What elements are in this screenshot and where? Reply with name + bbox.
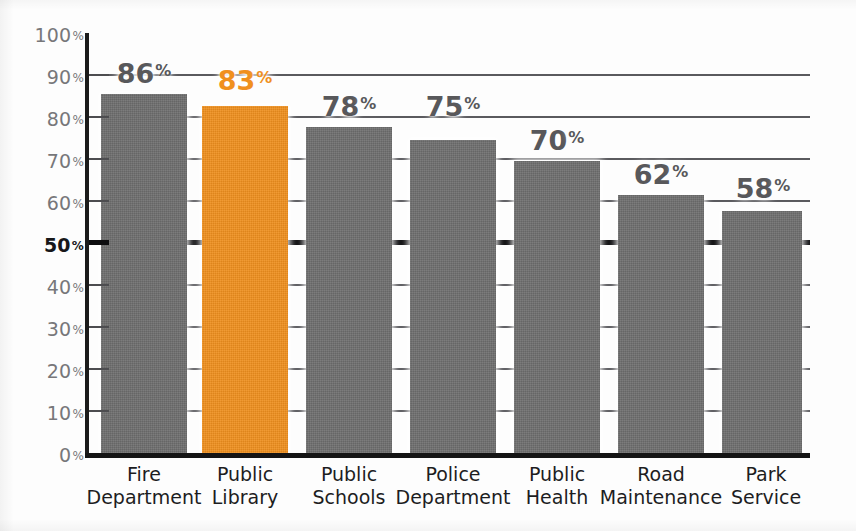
x-axis-baseline xyxy=(85,453,810,458)
value-text: 75 xyxy=(426,91,464,122)
percent-sign: % xyxy=(72,323,84,337)
value-text: 70 xyxy=(530,125,568,156)
value-label-public-health: 70% xyxy=(514,124,600,154)
gridline-90 xyxy=(89,74,810,76)
value-label-fire-department: 86% xyxy=(101,57,187,87)
y-tick-value-50: 50 xyxy=(44,234,71,256)
percent-sign: % xyxy=(774,176,790,195)
value-label-public-schools: 78% xyxy=(306,90,392,120)
y-tick-value-40: 40 xyxy=(47,276,72,298)
bar-public-schools[interactable] xyxy=(306,127,392,455)
category-label-public-library: Public Library xyxy=(192,463,298,509)
percent-sign: % xyxy=(72,281,84,295)
bar-public-library[interactable] xyxy=(202,106,288,455)
percent-sign: % xyxy=(72,29,84,43)
value-label-road-maintenance: 62% xyxy=(618,158,704,188)
y-tick-label-100: 100% xyxy=(8,26,84,46)
tick-20 xyxy=(89,368,109,370)
percent-sign: % xyxy=(672,162,688,181)
y-tick-label-30: 30% xyxy=(8,320,84,340)
tick-70 xyxy=(89,158,109,160)
y-axis-tick-labels: 100% 90% 80% 70% 60% 50% 40% 30% 20% 10% xyxy=(0,0,84,531)
value-text: 62 xyxy=(634,159,672,190)
value-text: 78 xyxy=(322,91,360,122)
percent-sign: % xyxy=(72,71,84,85)
percent-sign: % xyxy=(72,239,84,253)
y-tick-label-70: 70% xyxy=(8,152,84,172)
bar-police-department[interactable] xyxy=(410,140,496,455)
percent-sign: % xyxy=(72,197,84,211)
y-tick-value-0: 0 xyxy=(59,444,71,466)
tick-30 xyxy=(89,326,109,328)
tick-40 xyxy=(89,284,109,286)
y-tick-label-0: 0% xyxy=(8,446,84,466)
category-label-police-department: Police Department xyxy=(389,463,517,509)
y-tick-value-90: 90 xyxy=(47,66,72,88)
value-label-park-service: 58% xyxy=(720,172,806,202)
y-tick-label-50: 50% xyxy=(8,236,84,256)
tick-10 xyxy=(89,410,109,412)
tick-50 xyxy=(89,240,109,245)
value-text: 83 xyxy=(218,65,256,96)
y-tick-value-20: 20 xyxy=(47,360,72,382)
y-tick-value-70: 70 xyxy=(47,150,72,172)
percent-sign: % xyxy=(72,155,84,169)
y-tick-label-20: 20% xyxy=(8,362,84,382)
value-label-police-department: 75% xyxy=(410,90,496,120)
percent-sign: % xyxy=(72,365,84,379)
percent-sign: % xyxy=(256,68,272,87)
bar-chart: 100% 90% 80% 70% 60% 50% 40% 30% 20% 10% xyxy=(0,0,856,531)
y-tick-label-40: 40% xyxy=(8,278,84,298)
y-tick-value-60: 60 xyxy=(47,192,72,214)
percent-sign: % xyxy=(464,94,480,113)
tick-80 xyxy=(89,116,109,118)
bar-park-service[interactable] xyxy=(722,211,802,455)
value-text: 58 xyxy=(736,173,774,204)
y-tick-value-100: 100 xyxy=(35,24,72,46)
bar-public-health[interactable] xyxy=(514,161,600,455)
y-tick-label-10: 10% xyxy=(8,404,84,424)
y-tick-label-80: 80% xyxy=(8,110,84,130)
category-label-fire-department: Fire Department xyxy=(80,463,208,509)
percent-sign: % xyxy=(72,449,84,463)
bar-road-maintenance[interactable] xyxy=(618,195,704,455)
value-label-public-library: 83% xyxy=(202,64,288,94)
percent-sign: % xyxy=(72,113,84,127)
y-axis-line xyxy=(85,33,89,457)
y-tick-value-30: 30 xyxy=(47,318,72,340)
percent-sign: % xyxy=(155,61,171,80)
y-tick-label-90: 90% xyxy=(8,68,84,88)
percent-sign: % xyxy=(360,94,376,113)
bar-fire-department[interactable] xyxy=(101,94,187,455)
y-tick-value-10: 10 xyxy=(47,402,72,424)
y-tick-label-60: 60% xyxy=(8,194,84,214)
y-tick-value-80: 80 xyxy=(47,108,72,130)
percent-sign: % xyxy=(568,128,584,147)
value-text: 86 xyxy=(117,58,155,89)
category-label-park-service: Park Service xyxy=(716,463,816,509)
category-label-road-maintenance: Road Maintenance xyxy=(593,463,729,509)
percent-sign: % xyxy=(72,407,84,421)
tick-60 xyxy=(89,200,109,202)
